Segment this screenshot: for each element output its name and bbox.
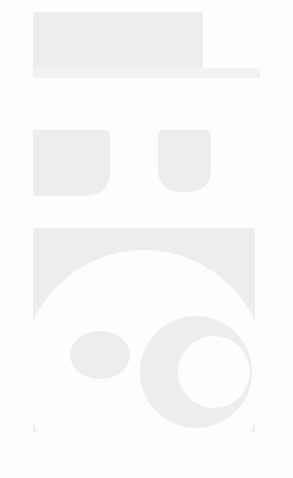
crescent-ring-mark (0, 0, 293, 478)
emblem-svg (0, 0, 293, 478)
emblem-canvas: Very faint light grey abstract emblem on… (0, 0, 293, 478)
